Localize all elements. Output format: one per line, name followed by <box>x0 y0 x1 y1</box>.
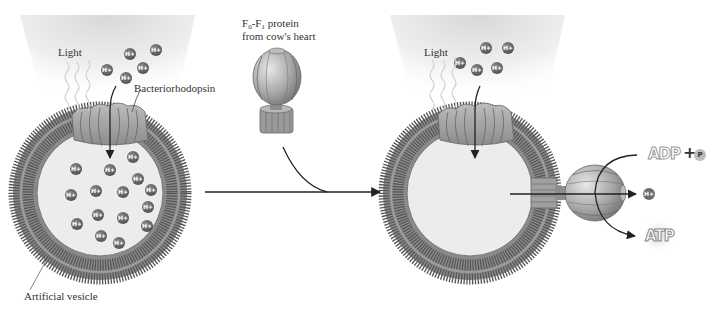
proton-label: H+ <box>96 232 106 239</box>
proton-label: H+ <box>118 188 128 195</box>
proton-label: H+ <box>151 46 161 53</box>
diagram-svg: H+H+H+H+H+H+H+H+H+H+H+H+H+H+H+H+H+H+H+H+… <box>0 0 724 309</box>
proton-label: H+ <box>492 64 502 71</box>
light-label-left: Light <box>58 46 82 59</box>
proton-label: H+ <box>138 64 148 71</box>
atp-label: ATP <box>645 227 674 245</box>
diagram-canvas: H+H+H+H+H+H+H+H+H+H+H+H+H+H+H+H+H+H+H+H+… <box>0 0 724 309</box>
proton-label: H+ <box>102 66 112 73</box>
proton-label: H+ <box>91 187 101 194</box>
f0f1-label-line2: from cow's heart <box>242 30 315 43</box>
bacteriorhodopsin-label: Bacteriorhodopsin <box>134 82 215 95</box>
proton-label: H+ <box>143 203 153 210</box>
proton-label: H+ <box>481 44 491 51</box>
proton-label: H+ <box>114 239 124 246</box>
proton-label: H+ <box>121 74 131 81</box>
proton-label: H+ <box>105 166 115 173</box>
proton-label: H+ <box>146 186 156 193</box>
adp-label: ADP <box>648 145 680 163</box>
proton-label: H+ <box>125 50 135 57</box>
proton-label: H+ <box>72 220 82 227</box>
f0f1-label-f1: -F <box>252 17 262 29</box>
proton-label: H+ <box>142 222 152 229</box>
proton-label: H+ <box>93 211 103 218</box>
proton-label: H+ <box>472 66 482 73</box>
f0f1-protein <box>253 48 301 133</box>
main-transition-arrow <box>205 147 380 192</box>
light-glow-left <box>20 15 195 110</box>
phosphate-icon: P <box>694 149 706 161</box>
light-glow-right <box>390 15 565 110</box>
proton-label: H+ <box>66 191 76 198</box>
proton-label: H+ <box>133 175 143 182</box>
f0f1-label-rest: protein <box>265 17 299 29</box>
artificial-vesicle-label: Artificial vesicle <box>24 290 98 303</box>
light-label-right: Light <box>424 46 448 59</box>
vesicle-leader <box>30 257 48 290</box>
proton-released: H+ <box>643 188 655 200</box>
proton-label: H+ <box>118 214 128 221</box>
proton-label: H+ <box>128 153 138 160</box>
proton-label: H+ <box>71 165 81 172</box>
proton-label: H+ <box>503 44 513 51</box>
bacteriorhodopsin-right <box>438 103 514 146</box>
